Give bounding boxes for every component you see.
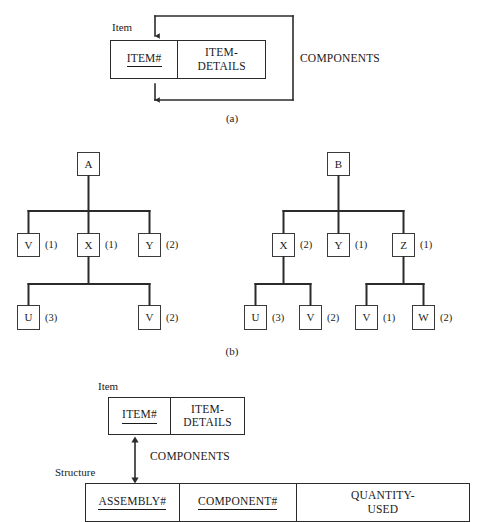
tree-a-level1-qty-0: (1) (45, 240, 57, 251)
tree-a-level1-node-0: V (17, 233, 40, 257)
tree-b-level1-node-2: Z (392, 233, 415, 257)
part-a-caption: (a) (192, 112, 272, 124)
part-c-item-entity-box: ITEM# ITEM- DETAILS (108, 397, 245, 435)
part-c-attribute-componentnum: COMPONENT# (179, 484, 296, 521)
tree-b-level2-node-2: V (355, 305, 378, 330)
part-c-structure-entity-label: Structure (55, 467, 95, 478)
part-c-structure-entity-box: ASSEMBLY# COMPONENT# QUANTITY- USED (85, 483, 470, 522)
part-a-item-entity-box: ITEM# ITEM- DETAILS (110, 40, 266, 79)
tree-b-level2-qty-2: (1) (383, 313, 395, 324)
part-c-relationship-label: COMPONENTS (150, 451, 230, 463)
tree-a-level2-qty-1: (2) (166, 313, 178, 324)
part-c-attribute-assemblynum: ASSEMBLY# (86, 484, 179, 521)
tree-a-level1-node-2: Y (138, 233, 161, 257)
tree-a-root-node: A (77, 152, 100, 176)
tree-b-level2-node-3: W (412, 305, 435, 330)
tree-b-level2-node-1: V (299, 305, 322, 330)
part-c-attribute-itemnum: ITEM# (109, 398, 170, 434)
part-c-attribute-quantityused: QUANTITY- USED (296, 484, 469, 521)
tree-a-level1-node-1: X (77, 233, 100, 257)
tree-b-level2-qty-1: (2) (327, 313, 339, 324)
tree-b-level1-qty-1: (1) (355, 240, 367, 251)
part-a-attribute-itemdetails: ITEM- DETAILS (177, 41, 265, 78)
part-a-entity-label: Item (112, 22, 132, 33)
part-a-relationship-label: COMPONENTS (300, 53, 380, 65)
tree-b-level1-qty-2: (1) (420, 240, 432, 251)
tree-a-level1-qty-2: (2) (166, 240, 178, 251)
part-c-arrowhead-up (131, 437, 138, 443)
part-c-attribute-itemdetails: ITEM- DETAILS (170, 398, 244, 434)
tree-b-level1-qty-0: (2) (300, 240, 312, 251)
tree-b-level2-qty-0: (3) (272, 313, 284, 324)
tree-a-level2-qty-0: (3) (45, 313, 57, 324)
tree-b-level1-node-0: X (272, 233, 295, 257)
part-c-item-entity-label: Item (98, 381, 118, 392)
tree-a-level1-qty-1: (1) (105, 240, 117, 251)
part-a-attribute-itemnum: ITEM# (111, 41, 177, 78)
tree-a-level2-node-1: V (138, 305, 161, 330)
tree-b-level2-qty-3: (2) (440, 313, 452, 324)
figure-canvas: Item ITEM# ITEM- DETAILS COMPONENTS (a) … (0, 0, 477, 522)
tree-b-level1-node-1: Y (327, 233, 350, 257)
tree-b-root-node: B (327, 152, 350, 176)
tree-a-level2-node-0: U (17, 305, 40, 330)
tree-b-level2-node-0: U (244, 305, 267, 330)
part-b-caption: (b) (192, 345, 272, 357)
